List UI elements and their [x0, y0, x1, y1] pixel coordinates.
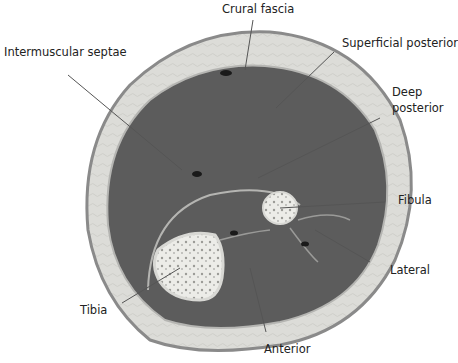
label-deep-posterior-line2: posterior [392, 102, 444, 115]
label-lateral: Lateral [390, 264, 430, 277]
label-anterior: Anterior [264, 343, 310, 356]
muscle-area [107, 66, 387, 328]
label-superficial-posterior: Superficial posterior [342, 37, 458, 50]
vessel [230, 231, 238, 236]
label-tibia: Tibia [80, 304, 107, 317]
label-fibula: Fibula [398, 194, 432, 207]
vessel [192, 171, 202, 177]
label-intermuscular-septae: Intermuscular septae [4, 46, 127, 59]
label-deep-posterior-line1: Deep [392, 86, 422, 99]
vessel [301, 242, 309, 247]
vessel [220, 70, 232, 76]
label-crural-fascia: Crural fascia [222, 3, 294, 16]
